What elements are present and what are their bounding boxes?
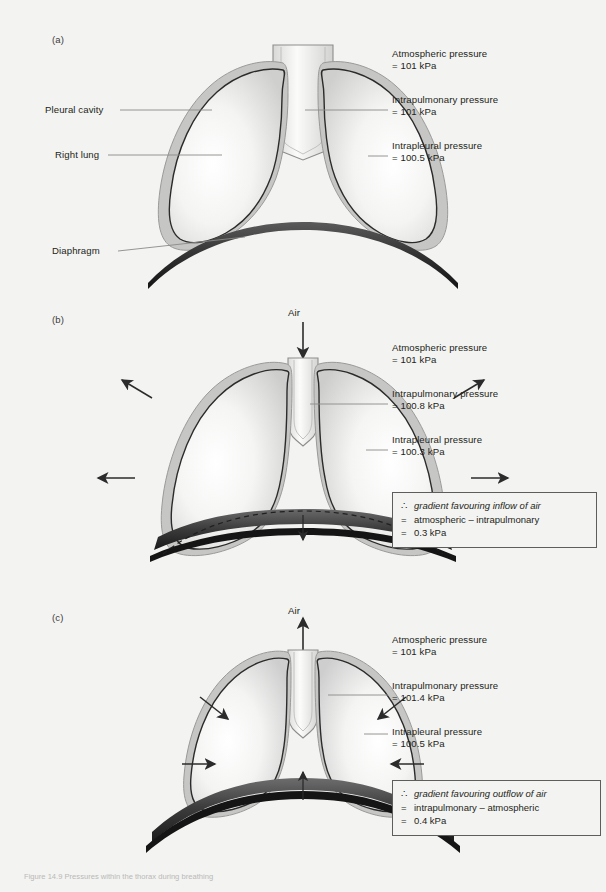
equals-symbol: = [401, 814, 414, 828]
readout-intrapulmonary-a: Intrapulmonary pressure = 101 kPa [392, 94, 498, 119]
expansion-arrow-upper-left [122, 380, 152, 398]
readout-value: = 101 kPa [392, 646, 487, 658]
readout-intrapleural-c: Intrapleural pressure = 100.5 kPa [392, 726, 482, 751]
readout-intrapleural-a: Intrapleural pressure = 100.5 kPa [392, 140, 482, 165]
figure-caption: Figure 14.9 Pressures within the thorax … [24, 872, 584, 882]
readout-atmospheric-c: Atmospheric pressure = 101 kPa [392, 634, 487, 659]
readout-intrapulmonary-c: Intrapulmonary pressure = 101.4 kPa [392, 680, 498, 705]
conclusion-line-3: = 0.4 kPa [401, 814, 591, 828]
conclusion-result: 0.4 kPa [414, 814, 446, 828]
trachea [288, 650, 318, 738]
label-pleural-cavity: Pleural cavity [45, 104, 103, 115]
trachea [288, 358, 318, 446]
conclusion-formula: intrapulmonary – atmospheric [414, 801, 539, 815]
readout-atmospheric-b: Atmospheric pressure = 101 kPa [392, 342, 487, 367]
conclusion-formula: atmospheric – intrapulmonary [414, 513, 539, 527]
conclusion-box-b: ∴ gradient favouring inflow of air = atm… [392, 492, 597, 548]
readout-value: = 100.3 kPa [392, 446, 482, 458]
conclusion-statement: gradient favouring inflow of air [414, 499, 541, 513]
label-diaphragm: Diaphragm [52, 245, 100, 256]
panel-b: (b) Air [0, 292, 606, 592]
readout-value: = 101 kPa [392, 106, 498, 118]
conclusion-line-1: ∴ gradient favouring inflow of air [401, 499, 587, 513]
readout-value: = 101 kPa [392, 354, 487, 366]
readout-value: = 101.4 kPa [392, 692, 498, 704]
therefore-symbol: ∴ [401, 787, 414, 801]
readout-label: Intrapulmonary pressure [392, 94, 498, 106]
readout-value: = 100.5 kPa [392, 152, 482, 164]
readout-label: Intrapleural pressure [392, 434, 482, 446]
readout-atmospheric-a: Atmospheric pressure = 101 kPa [392, 48, 487, 73]
readout-value: = 100.5 kPa [392, 738, 482, 750]
conclusion-statement: gradient favouring outflow of air [414, 787, 547, 801]
label-right-lung: Right lung [55, 149, 99, 160]
readout-value: = 100.8 kPa [392, 400, 498, 412]
lung-left [169, 69, 284, 243]
conclusion-box-c: ∴ gradient favouring outflow of air = in… [392, 780, 601, 836]
readout-value: = 101 kPa [392, 60, 487, 72]
readout-label: Atmospheric pressure [392, 342, 487, 354]
equals-symbol: = [401, 801, 414, 815]
readout-intrapulmonary-b: Intrapulmonary pressure = 100.8 kPa [392, 388, 498, 413]
readout-label: Intrapleural pressure [392, 726, 482, 738]
conclusion-result: 0.3 kPa [414, 526, 446, 540]
panel-c: (c) Air [0, 592, 606, 864]
readout-label: Intrapulmonary pressure [392, 680, 498, 692]
readout-label: Intrapulmonary pressure [392, 388, 498, 400]
equals-symbol: = [401, 513, 414, 527]
conclusion-line-2: = atmospheric – intrapulmonary [401, 513, 587, 527]
respiration-pressure-figure: (a) [0, 0, 606, 892]
readout-intrapleural-b: Intrapleural pressure = 100.3 kPa [392, 434, 482, 459]
panel-a: (a) [0, 0, 606, 300]
conclusion-line-1: ∴ gradient favouring outflow of air [401, 787, 591, 801]
equals-symbol: = [401, 526, 414, 540]
conclusion-line-3: = 0.3 kPa [401, 526, 587, 540]
conclusion-line-2: = intrapulmonary – atmospheric [401, 801, 591, 815]
readout-label: Intrapleural pressure [392, 140, 482, 152]
readout-label: Atmospheric pressure [392, 634, 487, 646]
therefore-symbol: ∴ [401, 499, 414, 513]
readout-label: Atmospheric pressure [392, 48, 487, 60]
